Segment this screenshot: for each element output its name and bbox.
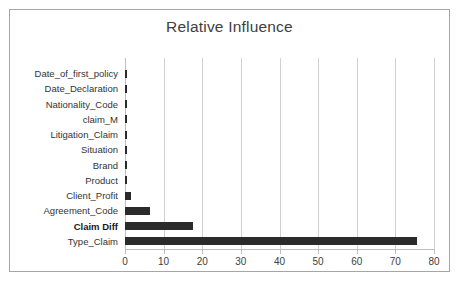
bar-row: [125, 97, 434, 112]
x-tick-label-0: 0: [122, 256, 128, 267]
bar-row: [125, 173, 434, 188]
bar-row: [125, 127, 434, 142]
bar-row: [125, 188, 434, 203]
bar: [125, 222, 193, 230]
tick-mark-50: [318, 249, 319, 254]
bar: [125, 207, 150, 215]
x-tick-label-20: 20: [197, 256, 208, 267]
tick-mark-10: [164, 249, 165, 254]
bar: [125, 176, 127, 184]
tick-mark-60: [357, 249, 358, 254]
x-tick-label-40: 40: [274, 256, 285, 267]
bar-row: [125, 66, 434, 81]
x-tick-label-80: 80: [428, 256, 439, 267]
x-tick-label-70: 70: [390, 256, 401, 267]
bar-row: [125, 81, 434, 96]
bar-series: [125, 66, 434, 249]
category-axis-labels: Date_of_first_policyDate_DeclarationNati…: [10, 66, 121, 249]
bar: [125, 131, 127, 139]
bar-row: [125, 142, 434, 157]
bar: [125, 146, 127, 154]
bar-row: [125, 234, 434, 249]
tick-mark-80: [434, 249, 435, 254]
tick-mark-70: [395, 249, 396, 254]
category-label: Situation: [10, 142, 121, 157]
category-label: Claim Diff: [10, 219, 121, 234]
category-label: Client_Profit: [10, 188, 121, 203]
tick-mark-30: [241, 249, 242, 254]
category-label: Nationality_Code: [10, 97, 121, 112]
bar: [125, 100, 127, 108]
category-label: Date_Declaration: [10, 81, 121, 96]
category-label: Type_Claim: [10, 234, 121, 249]
category-label: Brand: [10, 158, 121, 173]
tick-mark-0: [125, 249, 126, 254]
bar: [125, 237, 417, 245]
x-tick-label-30: 30: [235, 256, 246, 267]
x-tick-label-60: 60: [351, 256, 362, 267]
bar: [125, 70, 127, 78]
x-tick-label-50: 50: [313, 256, 324, 267]
category-label: Litigation_Claim: [10, 127, 121, 142]
category-label: Date_of_first_policy: [10, 66, 121, 81]
bar-row: [125, 203, 434, 218]
bar-row: [125, 112, 434, 127]
chart-frame: Relative Influence Date_of_first_policyD…: [9, 9, 450, 272]
category-label: Product: [10, 173, 121, 188]
x-axis-tick-labels: 01020304050607080: [125, 256, 434, 272]
plot-area: Date_of_first_policyDate_DeclarationNati…: [10, 10, 449, 271]
bar: [125, 115, 127, 123]
category-label: Agreement_Code: [10, 203, 121, 218]
bar: [125, 161, 127, 169]
gridline-80: [434, 58, 435, 250]
bar-row: [125, 158, 434, 173]
bar-row: [125, 219, 434, 234]
tick-mark-20: [202, 249, 203, 254]
bar: [125, 85, 127, 93]
bar: [125, 192, 131, 200]
x-tick-label-10: 10: [158, 256, 169, 267]
category-label: claim_M: [10, 112, 121, 127]
tick-mark-40: [280, 249, 281, 254]
